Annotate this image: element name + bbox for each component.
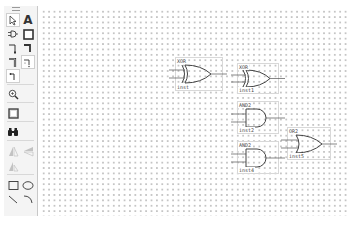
symbol-name-label: AND2	[238, 142, 252, 148]
line-icon	[8, 194, 19, 205]
toolbar-separator	[7, 121, 34, 122]
rubberbanding-tool-button[interactable]	[21, 55, 35, 69]
instance-name-label: inst1	[238, 87, 255, 93]
selection-tool-button[interactable]	[6, 13, 20, 27]
gate-symbol-icon	[7, 29, 19, 39]
rubberband-icon	[23, 57, 33, 68]
conduit-line-icon	[8, 57, 18, 68]
magnifier-icon	[8, 89, 19, 100]
toolbar-separator	[7, 140, 34, 141]
or2-gate-inst5[interactable]: OR2 inst5	[287, 127, 331, 160]
symbol-name-label: XOR	[176, 58, 187, 64]
rotate-icon	[8, 161, 19, 172]
instance-name-label: inst	[176, 84, 190, 90]
block-tool-button[interactable]	[21, 27, 35, 41]
text-tool-button[interactable]: A	[21, 13, 35, 27]
full-screen-tool-button[interactable]	[6, 106, 20, 120]
orthogonal-bus-tool-button[interactable]	[21, 41, 35, 55]
find-tool-button[interactable]	[6, 125, 20, 139]
flip-horizontal-icon	[8, 146, 19, 157]
node-line-icon	[8, 43, 18, 54]
partial-line-tool-button[interactable]	[6, 69, 20, 83]
flip-horizontal-tool-button[interactable]	[6, 144, 20, 158]
oval-icon	[22, 180, 34, 191]
symbol-tool-button[interactable]	[6, 27, 20, 41]
and2-gate-inst4[interactable]: AND2 inst4	[237, 141, 279, 174]
toolbar-grip[interactable]	[12, 7, 20, 11]
block-rectangle-icon	[23, 29, 34, 40]
orthogonal-conduit-tool-button[interactable]	[6, 55, 20, 69]
toolbar-separator	[7, 174, 34, 175]
and2-gate-inst2[interactable]: AND2 inst2	[237, 101, 279, 134]
arc-tool-button[interactable]	[21, 192, 35, 206]
text-a-icon: A	[23, 13, 32, 27]
instance-name-label: inst5	[288, 153, 305, 159]
pointer-arrow-icon	[8, 15, 18, 26]
xor-gate-inst1[interactable]: XOR inst1	[237, 63, 279, 94]
full-screen-icon	[8, 108, 19, 119]
symbol-name-label: XOR	[238, 64, 249, 70]
zoom-tool-button[interactable]	[6, 87, 20, 101]
rectangle-icon	[8, 180, 19, 191]
toolbar-separator	[7, 102, 34, 103]
symbol-name-label: AND2	[238, 102, 252, 108]
rectangle-tool-button[interactable]	[6, 178, 20, 192]
block-editor-toolbar: A	[4, 6, 38, 216]
flip-vertical-icon	[23, 146, 34, 157]
symbol-name-label: OR2	[288, 128, 299, 134]
schematic-canvas[interactable]: XOR inst XOR inst1 AND2 inst2	[40, 8, 348, 216]
instance-name-label: inst2	[238, 127, 255, 133]
toolbar-separator	[7, 84, 34, 85]
xor-gate-inst[interactable]: XOR inst	[175, 57, 223, 91]
line-tool-button[interactable]	[6, 192, 20, 206]
binoculars-icon	[7, 127, 19, 137]
partial-line-icon	[8, 71, 18, 82]
orthogonal-node-tool-button[interactable]	[6, 41, 20, 55]
rotate-tool-button[interactable]	[6, 159, 20, 173]
arc-icon	[23, 194, 34, 205]
oval-tool-button[interactable]	[21, 178, 35, 192]
flip-vertical-tool-button[interactable]	[21, 144, 35, 158]
bus-line-icon	[23, 43, 33, 54]
instance-name-label: inst4	[238, 167, 255, 173]
